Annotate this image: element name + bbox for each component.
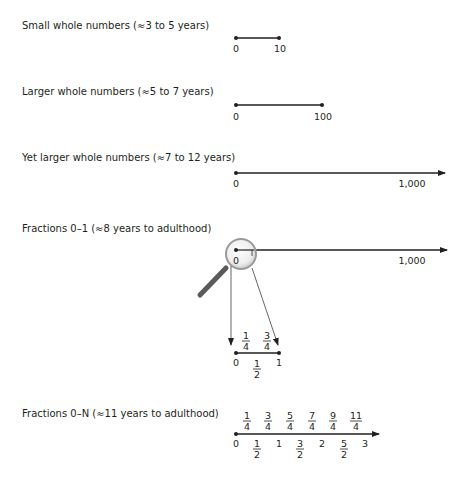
tick-label-0: 0 xyxy=(233,43,239,54)
svg-text:4: 4 xyxy=(244,421,250,432)
svg-text:3: 3 xyxy=(264,330,270,341)
fraction-5-4: 54 xyxy=(286,410,294,432)
svg-text:7: 7 xyxy=(309,410,315,421)
tick-label-1000: 1,000 xyxy=(398,255,425,266)
svg-text:1: 1 xyxy=(254,358,260,369)
svg-text:2: 2 xyxy=(341,449,347,460)
svg-text:4: 4 xyxy=(243,341,249,352)
tick-label-1: 1 xyxy=(276,438,282,449)
fraction-3-2: 32 xyxy=(296,438,304,460)
svg-text:4: 4 xyxy=(309,421,315,432)
fraction-1-2: 1 2 xyxy=(253,358,261,380)
tick-label-1: 1 xyxy=(276,357,282,368)
number-line-0-100: 0 100 xyxy=(233,103,332,122)
tick-label-100: 100 xyxy=(314,111,332,122)
svg-text:9: 9 xyxy=(330,410,336,421)
svg-text:3: 3 xyxy=(297,438,303,449)
number-line-fractions-0-1: 1,000 0 1 4 3 4 0 xyxy=(200,239,447,380)
svg-text:5: 5 xyxy=(287,410,293,421)
zoomed-number-line-0-1: 1 4 3 4 0 1 1 2 xyxy=(233,330,282,380)
fraction-1-4: 1 4 xyxy=(242,330,250,352)
fraction-11-4: 114 xyxy=(350,410,362,432)
svg-text:4: 4 xyxy=(330,421,336,432)
tick-label-2: 2 xyxy=(319,438,325,449)
tick-label-1000: 1,000 xyxy=(398,178,425,189)
svg-text:1: 1 xyxy=(243,330,249,341)
tick-label-0: 0 xyxy=(233,357,239,368)
magnifier-icon xyxy=(200,239,256,295)
fraction-1-4: 14 xyxy=(243,410,251,432)
tick-label-0: 0 xyxy=(233,255,239,266)
svg-text:4: 4 xyxy=(353,421,359,432)
fraction-5-2: 52 xyxy=(340,438,348,460)
number-line-fractions-0-n: 14 34 54 74 94 114 0 1 2 3 12 32 52 xyxy=(233,410,379,460)
svg-text:4: 4 xyxy=(265,421,271,432)
svg-text:4: 4 xyxy=(287,421,293,432)
fraction-3-4: 34 xyxy=(264,410,272,432)
fraction-9-4: 94 xyxy=(329,410,337,432)
tick-label-10: 10 xyxy=(274,43,286,54)
svg-text:1: 1 xyxy=(254,438,260,449)
fraction-7-4: 74 xyxy=(308,410,316,432)
svg-text:2: 2 xyxy=(297,449,303,460)
tick-label-0: 0 xyxy=(233,178,239,189)
number-line-diagram: 0 10 0 100 0 1,000 1,000 0 xyxy=(0,0,468,478)
tick-label-3: 3 xyxy=(362,438,368,449)
number-line-0-1000: 0 1,000 xyxy=(233,171,445,189)
tick-label-0: 0 xyxy=(233,111,239,122)
svg-text:3: 3 xyxy=(265,410,271,421)
svg-text:4: 4 xyxy=(264,341,270,352)
svg-text:11: 11 xyxy=(350,410,362,421)
svg-text:2: 2 xyxy=(254,369,260,380)
number-line-0-10: 0 10 xyxy=(233,36,286,54)
svg-text:1: 1 xyxy=(244,410,250,421)
fraction-3-4: 3 4 xyxy=(263,330,271,352)
tick-label-0: 0 xyxy=(233,438,239,449)
svg-text:2: 2 xyxy=(254,449,260,460)
fraction-1-2: 12 xyxy=(253,438,261,460)
svg-text:5: 5 xyxy=(341,438,347,449)
